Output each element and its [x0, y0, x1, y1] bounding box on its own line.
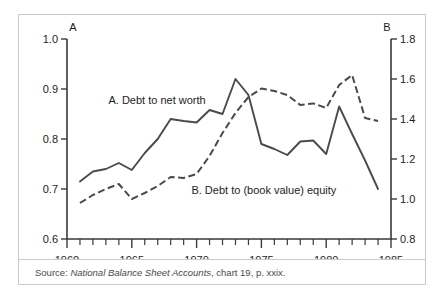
right-axis-tick-label: 1.0	[400, 193, 415, 205]
source-prefix: Source:	[35, 267, 70, 278]
plot-area: 1.00.90.80.70.6A1.81.61.41.21.00.8B19601…	[19, 15, 425, 260]
right-axis-tick-label: 1.2	[400, 153, 415, 165]
source-publication-title: National Balance Sheet Accounts	[70, 267, 211, 278]
left-axis-tick-label: 1.0	[43, 33, 58, 45]
left-axis-tick-label: 0.6	[43, 233, 58, 245]
series-label-b: B. Debt to (book value) equity	[191, 184, 336, 196]
series-label-a: A. Debt to net worth	[108, 94, 205, 106]
right-axis-tick-label: 1.6	[400, 73, 415, 85]
source-note: Source: National Balance Sheet Accounts,…	[19, 267, 286, 278]
right-axis-tick-label: 0.8	[400, 233, 415, 245]
source-suffix: , chart 19, p. xxix.	[211, 267, 285, 278]
axis-frame	[67, 39, 391, 239]
left-axis-tick-label: 0.9	[43, 83, 58, 95]
chart-figure: 1.00.90.80.70.6A1.81.61.41.21.00.8B19601…	[18, 14, 426, 285]
right-axis-tick-label: 1.8	[400, 33, 415, 45]
left-axis-cap: A	[69, 21, 77, 33]
source-row: Source: National Balance Sheet Accounts,…	[19, 259, 425, 284]
line-chart: 1.00.90.80.70.6A1.81.61.41.21.00.8B19601…	[19, 15, 425, 260]
left-axis-tick-label: 0.8	[43, 133, 58, 145]
right-axis-tick-label: 1.4	[400, 113, 415, 125]
right-axis-cap: B	[383, 21, 390, 33]
left-axis-tick-label: 0.7	[43, 183, 58, 195]
